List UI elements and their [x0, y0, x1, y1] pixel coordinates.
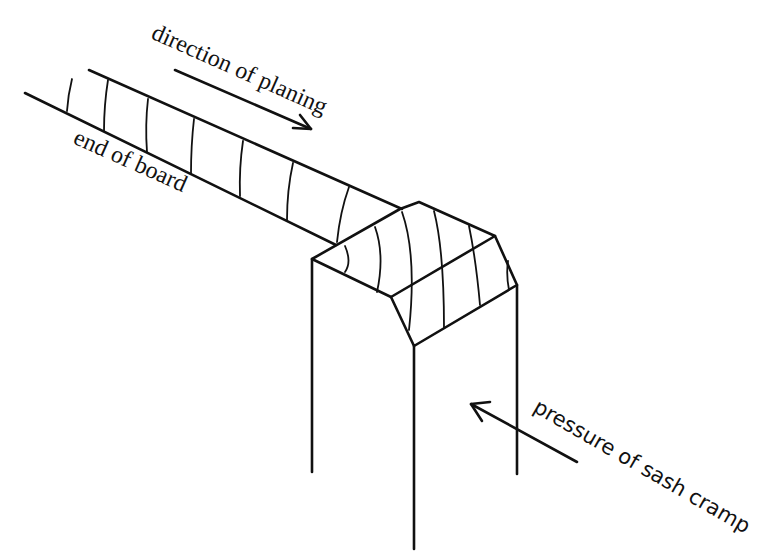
end-of-board-label: end of board [70, 124, 191, 197]
pressure-of-sash-cramp-label: pressure of sash cramp [530, 395, 755, 539]
post [312, 202, 517, 549]
board-upper-edge [89, 70, 402, 209]
planing-diagram: direction of planing end of board pressu… [0, 0, 766, 559]
post-grain-lines [345, 211, 509, 330]
board [25, 70, 402, 245]
